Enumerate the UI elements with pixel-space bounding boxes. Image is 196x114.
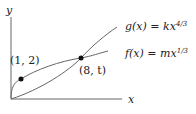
curve-label-g: g(x) = kx4/3 [125,20,188,33]
point-1-2 [19,77,24,82]
point-8-t [79,56,84,61]
point-label-8-t: (8, t) [79,64,106,77]
y-axis-label: y [5,4,13,17]
point-label-1-2: (1, 2) [10,54,40,67]
x-axis-label: x [128,93,135,106]
curve-label-f: f(x) = mx1/3 [124,47,189,60]
graph-diagram: y x (1, 2) (8, t) g(x) = kx4/3 f(x) = mx… [0,0,196,114]
